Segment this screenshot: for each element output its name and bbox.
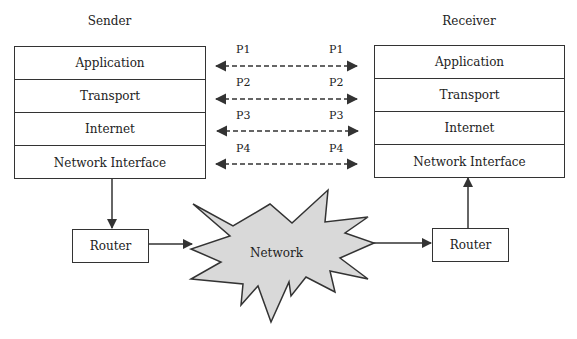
- receiver-layer-transport: Transport: [375, 79, 564, 112]
- receiver-title: Receiver: [374, 14, 564, 28]
- protocol-label-right-p1: P1: [329, 43, 343, 56]
- sender-title: Sender: [14, 14, 205, 28]
- protocol-label-right-p4: P4: [329, 142, 343, 155]
- router-right: Router: [432, 228, 509, 262]
- protocol-label-right-p2: P2: [329, 76, 343, 89]
- protocol-label-left-p1: P1: [236, 43, 250, 56]
- protocol-label-left-p4: P4: [236, 142, 250, 155]
- sender-layer-application: Application: [15, 47, 205, 80]
- network-label: Network: [250, 246, 303, 260]
- sender-stack: Application Transport Internet Network I…: [14, 46, 206, 179]
- protocol-label-left-p2: P2: [236, 76, 250, 89]
- protocol-label-left-p3: P3: [236, 109, 250, 122]
- protocol-label-right-p3: P3: [329, 109, 343, 122]
- receiver-layer-internet: Internet: [375, 112, 564, 145]
- receiver-layer-application: Application: [375, 46, 564, 79]
- router-left: Router: [72, 229, 149, 263]
- sender-layer-network-interface: Network Interface: [15, 146, 205, 179]
- sender-layer-transport: Transport: [15, 80, 205, 113]
- sender-layer-internet: Internet: [15, 113, 205, 146]
- receiver-layer-network-interface: Network Interface: [375, 145, 564, 178]
- receiver-stack: Application Transport Internet Network I…: [374, 45, 565, 178]
